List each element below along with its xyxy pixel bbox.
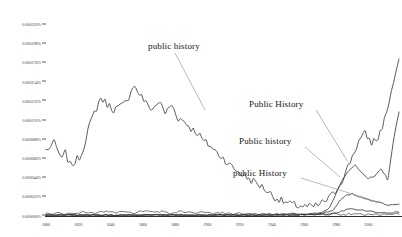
x-axis-tick: 1940 [268, 222, 276, 227]
series-label-public-history-lower: public History [233, 168, 287, 178]
x-axis-tick: 1900 [203, 222, 211, 227]
x-axis-tick: 1880 [171, 222, 179, 227]
ngram-chart: 0.000220% 0.000198% 0.000176% 0.000154% … [0, 0, 402, 237]
x-axis-tick: 2000 [364, 222, 372, 227]
x-axis-tick: 1820 [74, 222, 82, 227]
series-label-public-history: public history [148, 41, 200, 51]
x-axis-tick: 1920 [235, 222, 243, 227]
x-axis: 1800 1820 1840 1860 1880 1900 1920 1940 … [0, 0, 402, 237]
series-label-public-history-caps: Public History [249, 99, 303, 109]
series-label-public-history-mixed: Public history [239, 136, 291, 146]
x-axis-tick: 1800 [42, 222, 50, 227]
x-axis-tick: 1960 [300, 222, 308, 227]
x-axis-tick: 1860 [139, 222, 147, 227]
x-axis-tick: 1980 [332, 222, 340, 227]
x-axis-tick: 1840 [106, 222, 114, 227]
